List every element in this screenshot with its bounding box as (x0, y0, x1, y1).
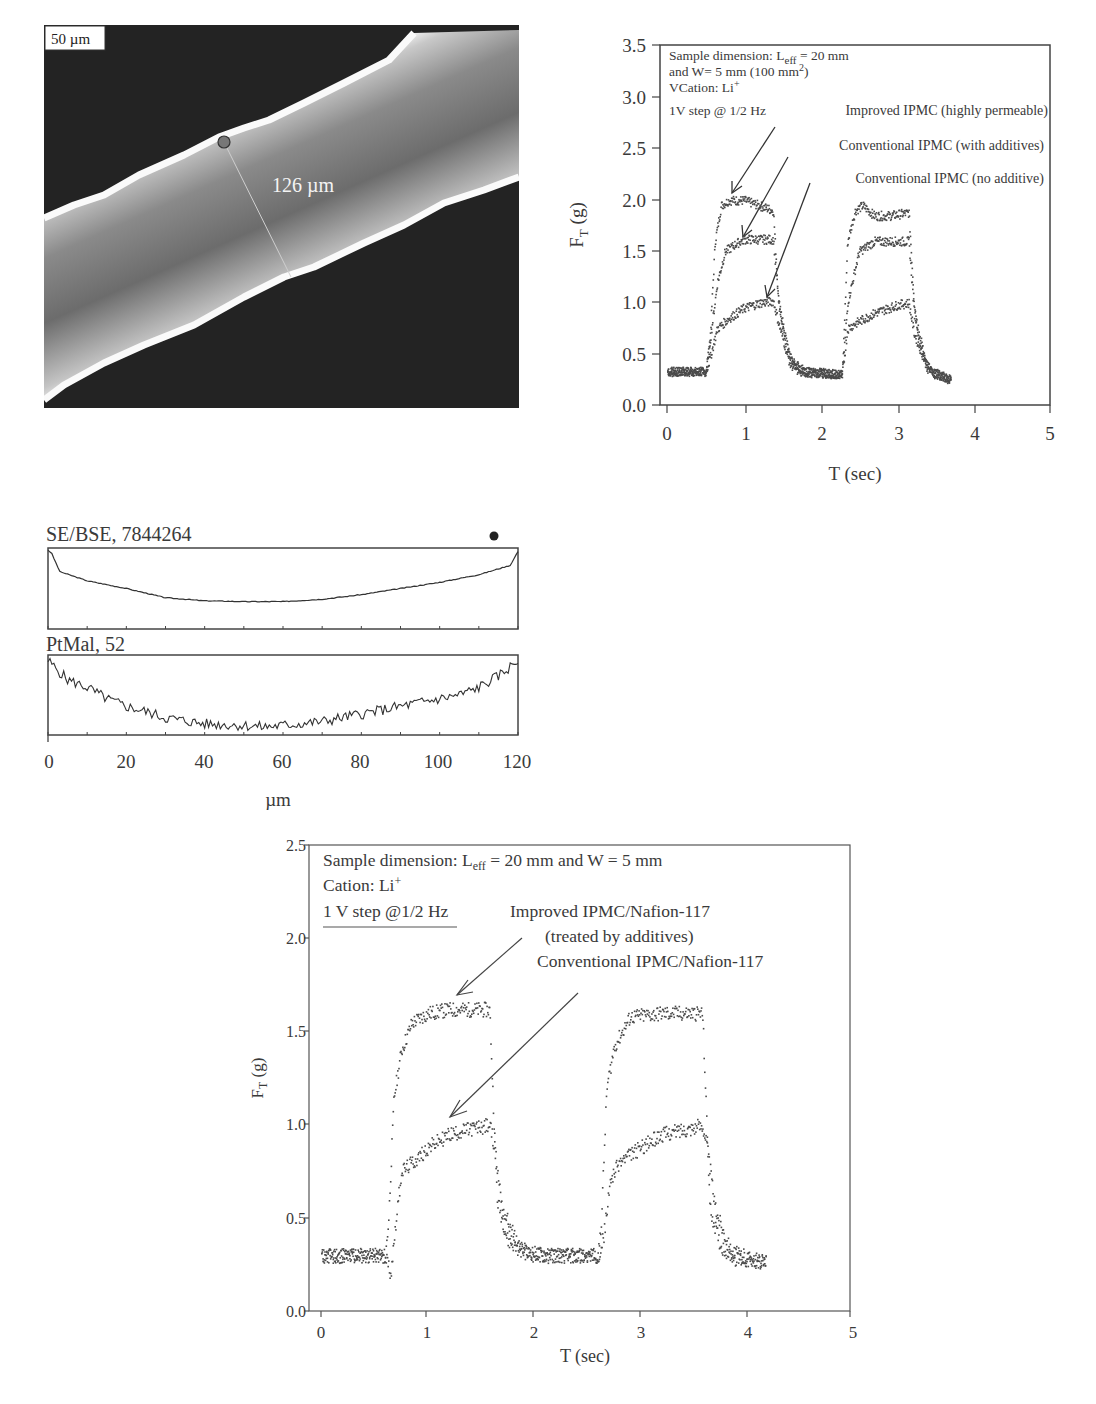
legend-box: Sample dimension: Leff = 20 mm and W= 5 … (669, 48, 849, 118)
svg-text:1 V step @1/2 Hz: 1 V step @1/2 Hz (323, 901, 449, 921)
x-tick-label: 1 (423, 1323, 432, 1342)
x-tick-label: 4 (744, 1323, 753, 1342)
y-tick-label: 0.0 (622, 395, 646, 416)
y-tick-label: 2.5 (286, 837, 306, 854)
sem-micrograph: 50 µm 126 µm (44, 25, 519, 408)
annotation-improved: Improved IPMC (highly permeable) (845, 103, 1048, 119)
annotation-with-additives: Conventional IPMC (with additives) (839, 138, 1044, 154)
y-tick-label: 2.5 (622, 138, 646, 159)
x-axis-label: T (sec) (560, 1346, 610, 1367)
x-tick-label: 120 (503, 751, 532, 772)
y-tick-label: 2.0 (286, 930, 306, 947)
x-tick-label: 5 (849, 1323, 858, 1342)
x-tick-label: 100 (424, 751, 453, 772)
annotation-improved: Improved IPMC/Nafion-117 (510, 901, 710, 921)
svg-text:1V step @ 1/2 Hz: 1V step @ 1/2 Hz (669, 103, 766, 118)
linescan-panel: SE/BSE, 7844264 PtMal, 52 0 20 40 60 80 … (30, 515, 560, 815)
chart-a-blocking-force: 0.0 0.5 1.0 1.5 2.0 2.5 3.0 3.5 0 1 2 3 … (560, 25, 1080, 495)
svg-text:VCation: Li+: VCation: Li+ (669, 78, 740, 95)
x-tick-label: 0 (662, 423, 672, 444)
x-axis (667, 405, 1050, 413)
y-axis-label: FT (g) (566, 202, 591, 247)
y-tick-label: 0.5 (622, 344, 646, 365)
y-axis (652, 45, 660, 405)
ptmal-label: PtMal, 52 (46, 633, 125, 655)
scale-bar-label: 50 µm (51, 31, 90, 47)
se-bse-label: SE/BSE, 7844264 (46, 523, 192, 545)
y-tick-label: 2.0 (622, 190, 646, 211)
annotation-conventional: Conventional IPMC/Nafion-117 (537, 951, 764, 971)
sem-image: 50 µm 126 µm (44, 25, 519, 408)
x-axis-label: T (sec) (829, 463, 882, 485)
x-tick-label: 4 (970, 423, 980, 444)
x-tick-label: 60 (273, 751, 292, 772)
y-axis-label: FT (g) (248, 1058, 270, 1099)
se-bse-profile-line (48, 550, 518, 602)
annotation-no-additive: Conventional IPMC (no additive) (855, 171, 1044, 187)
y-tick-label: 1.5 (622, 241, 646, 262)
y-tick-label: 0.5 (286, 1210, 306, 1227)
y-tick-label: 0.0 (286, 1303, 306, 1320)
measurement-marker-icon (218, 136, 230, 148)
y-tick-label: 3.5 (622, 35, 646, 56)
x-tick-label: 40 (195, 751, 214, 772)
x-tick-label: 80 (351, 751, 370, 772)
y-tick-label: 1.5 (286, 1023, 306, 1040)
y-tick-label: 3.0 (622, 87, 646, 108)
ptmal-profile-line (48, 659, 518, 731)
chart-a-series (667, 196, 952, 384)
y-tick-label: 1.0 (622, 292, 646, 313)
chart-b-blocking-force: 0.0 0.5 1.0 1.5 2.0 2.5 0 1 2 3 4 5 T (s… (230, 830, 880, 1390)
x-tick-label: 3 (637, 1323, 646, 1342)
svg-text:Sample dimension: Leff = 20 mm: Sample dimension: Leff = 20 mm and W = 5… (323, 850, 663, 873)
x-tick-label: 5 (1045, 423, 1055, 444)
svg-text:and W= 5 mm (100 mm2): and W= 5 mm (100 mm2) (669, 62, 808, 79)
marker-dot-icon (490, 532, 499, 541)
thickness-label: 126 µm (272, 174, 335, 197)
x-axis-label: µm (265, 789, 291, 810)
chart-b-series (321, 1002, 767, 1279)
x-tick-label: 2 (817, 423, 827, 444)
x-tick-label: 1 (741, 423, 751, 444)
plot-frame (660, 45, 1050, 405)
annotation-treated: (treated by additives) (545, 926, 694, 946)
x-tick-label: 3 (894, 423, 904, 444)
x-tick-label: 20 (117, 751, 136, 772)
x-tick-label: 0 (317, 1323, 326, 1342)
x-tick-label: 0 (44, 751, 54, 772)
y-tick-label: 1.0 (286, 1116, 306, 1133)
svg-text:Cation: Li+: Cation: Li+ (323, 874, 401, 895)
se-bse-box (48, 548, 518, 629)
x-tick-label: 2 (530, 1323, 539, 1342)
